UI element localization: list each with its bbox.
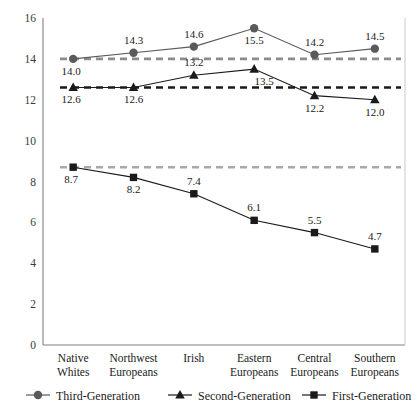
x-category-label-5: Europeans	[351, 366, 400, 379]
y-tick-label: 6	[30, 216, 36, 228]
x-category-label-1: Europeans	[109, 366, 158, 379]
marker-third-generation-3	[250, 24, 258, 32]
point-label-first-generation-4: 5.5	[308, 214, 322, 226]
marker-first-generation-0	[69, 163, 76, 170]
point-label-first-generation-3: 6.1	[247, 201, 261, 213]
reference-lines	[60, 59, 401, 167]
x-category-label-5: Southern	[354, 352, 396, 364]
point-label-second-generation-4: 12.2	[305, 102, 324, 114]
point-label-third-generation-0: 14.0	[62, 65, 82, 77]
point-label-first-generation-5: 4.7	[368, 230, 382, 242]
marker-first-generation-4	[311, 229, 318, 236]
x-category-label-2: Irish	[183, 352, 204, 364]
y-axis-tick-labels: 1614121086420	[25, 12, 37, 351]
legend-marker-circle-icon	[34, 391, 42, 399]
marker-third-generation-5	[371, 44, 379, 52]
marker-third-generation-2	[190, 42, 198, 50]
point-label-second-generation-2: 13.2	[184, 56, 203, 68]
point-label-third-generation-5: 14.5	[365, 30, 385, 42]
chart-legend: Third-GenerationSecond-GenerationFirst-G…	[26, 389, 411, 403]
y-tick-label: 16	[25, 12, 37, 24]
marker-first-generation-5	[371, 245, 378, 252]
legend-marker-triangle-icon	[175, 390, 185, 399]
point-label-first-generation-2: 7.4	[187, 175, 201, 187]
y-tick-label: 12	[25, 94, 37, 106]
chart-svg: 1614121086420 14.014.314.615.514.214.512…	[0, 0, 418, 405]
point-label-first-generation-1: 8.2	[127, 183, 141, 195]
x-category-label-4: Central	[298, 352, 332, 364]
series-line-third-generation	[73, 28, 375, 59]
y-tick-label: 10	[25, 135, 37, 147]
x-category-label-3: Europeans	[230, 366, 279, 379]
legend-label-1: Second-Generation	[198, 389, 291, 403]
series-markers	[68, 24, 379, 253]
marker-third-generation-4	[310, 51, 318, 59]
series-lines	[73, 28, 375, 249]
x-category-label-1: Northwest	[110, 352, 159, 364]
point-label-second-generation-3: 13.5	[255, 75, 275, 87]
marker-first-generation-3	[250, 217, 257, 224]
legend-label-2: First-Generation	[332, 389, 411, 403]
line-chart: 1614121086420 14.014.314.615.514.214.512…	[0, 0, 418, 405]
x-category-label-4: Europeans	[290, 366, 339, 379]
y-tick-label: 8	[30, 176, 36, 188]
x-category-label-0: Whites	[57, 366, 90, 378]
plot-frame	[43, 18, 405, 345]
point-label-second-generation-0: 12.6	[62, 93, 82, 105]
x-axis-category-labels: NativeWhitesNorthwestEuropeansIrishEaste…	[57, 352, 400, 379]
series-line-second-generation	[73, 69, 375, 100]
point-label-third-generation-1: 14.3	[124, 34, 144, 46]
marker-third-generation-1	[129, 49, 137, 57]
y-tick-label: 2	[30, 298, 36, 310]
series-line-first-generation	[73, 167, 375, 249]
point-label-third-generation-4: 14.2	[305, 36, 324, 48]
legend-marker-square-icon	[310, 391, 317, 398]
y-tick-label: 4	[30, 257, 36, 269]
legend-label-0: Third-Generation	[56, 389, 140, 403]
point-label-third-generation-3: 15.5	[245, 34, 265, 46]
x-category-label-3: Eastern	[237, 352, 272, 364]
marker-second-generation-4	[310, 91, 320, 100]
y-tick-label: 0	[30, 339, 36, 351]
marker-first-generation-1	[130, 174, 137, 181]
marker-third-generation-0	[69, 55, 77, 63]
marker-second-generation-3	[249, 64, 258, 73]
point-label-first-generation-0: 8.7	[64, 173, 78, 185]
x-category-label-0: Native	[58, 352, 89, 364]
y-tick-label: 14	[25, 53, 37, 65]
point-label-second-generation-1: 12.6	[124, 93, 144, 105]
point-label-second-generation-5: 12.0	[365, 106, 385, 118]
marker-first-generation-2	[190, 190, 197, 197]
point-label-third-generation-2: 14.6	[184, 28, 204, 40]
